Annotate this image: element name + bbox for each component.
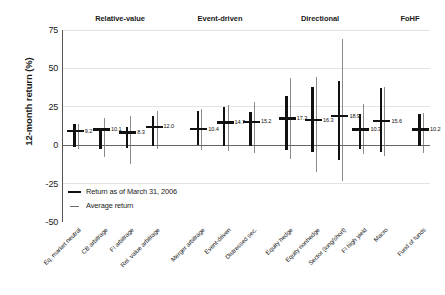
value-label-3: 12.0: [164, 123, 175, 129]
legend-swatch-thick-icon: [68, 191, 81, 194]
value-label-4: 10.4: [208, 126, 219, 132]
value-label-6: 15.2: [261, 118, 272, 124]
x-axis-label-text-12: Fund of funds: [396, 226, 427, 257]
value-label-7: 17.3: [297, 115, 308, 121]
legend-item-average: Average return: [68, 200, 238, 212]
value-label-0: 9.2: [85, 128, 92, 134]
y-axis-tick-labels: 75 50 25 0 -25 -50: [26, 30, 58, 222]
legend-swatch-thin-icon: [68, 206, 81, 207]
x-axis-label-text-4: Merger arbitrage: [169, 226, 206, 263]
legend-label-return: Return as of March 31, 2006: [86, 188, 177, 196]
y-tick-neg25: -25: [28, 180, 58, 189]
value-label-5: 14.7: [235, 119, 246, 125]
y-tick-neg50: -50: [28, 218, 58, 227]
x-axis-category-labels: Eq. market neutralCB arbitrageFI arbitra…: [62, 224, 430, 294]
series-return-march-2006: [74, 81, 419, 159]
y-tick-50: 50: [28, 64, 58, 73]
x-axis-label-text-1: CB arbitrage: [79, 226, 108, 255]
y-tick-75: 75: [28, 26, 58, 35]
value-label-8: 16.3: [323, 117, 334, 123]
x-axis-label-text-0: Eq. market neutral: [42, 226, 82, 266]
chart-legend: Return as of March 31, 2006 Average retu…: [68, 186, 238, 214]
series-average-return: [78, 39, 423, 181]
value-label-9: 18.9: [349, 113, 360, 119]
legend-item-return: Return as of March 31, 2006: [68, 186, 238, 198]
group-header-fohf: FoHF: [330, 14, 445, 23]
value-label-12: 10.2: [430, 126, 441, 132]
x-axis-label-text-11: Macro: [372, 226, 389, 243]
y-tick-0: 0: [28, 141, 58, 150]
value-label-11: 15.6: [391, 118, 402, 124]
value-label-10: 10.3: [370, 126, 381, 132]
x-axis-label-text-2: FI arbitrage: [108, 226, 135, 253]
legend-label-average: Average return: [86, 202, 133, 210]
y-tick-25: 25: [28, 103, 58, 112]
value-label-2: 8.3: [137, 129, 144, 135]
value-label-1: 10.1: [111, 126, 122, 132]
